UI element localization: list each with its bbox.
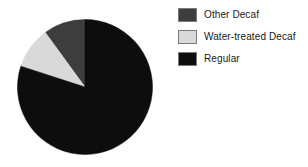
chart-legend: Other Decaf Water-treated Decaf Regular <box>178 4 306 70</box>
pie-chart-figure: Other Decaf Water-treated Decaf Regular <box>0 0 308 167</box>
legend-item-regular[interactable]: Regular <box>178 48 306 70</box>
legend-label-water-treated-decaf: Water-treated Decaf <box>204 31 296 43</box>
pie-chart-plot-area <box>17 19 153 155</box>
pie-chart-svg <box>17 19 153 155</box>
legend-label-regular: Regular <box>204 53 240 65</box>
legend-swatch-other-decaf <box>178 8 197 22</box>
legend-item-water-treated-decaf[interactable]: Water-treated Decaf <box>178 26 306 48</box>
legend-item-other-decaf[interactable]: Other Decaf <box>178 4 306 26</box>
legend-swatch-water-treated-decaf <box>178 30 197 44</box>
legend-swatch-regular <box>178 52 197 66</box>
legend-label-other-decaf: Other Decaf <box>204 9 259 21</box>
pie-slice-group <box>17 20 152 155</box>
